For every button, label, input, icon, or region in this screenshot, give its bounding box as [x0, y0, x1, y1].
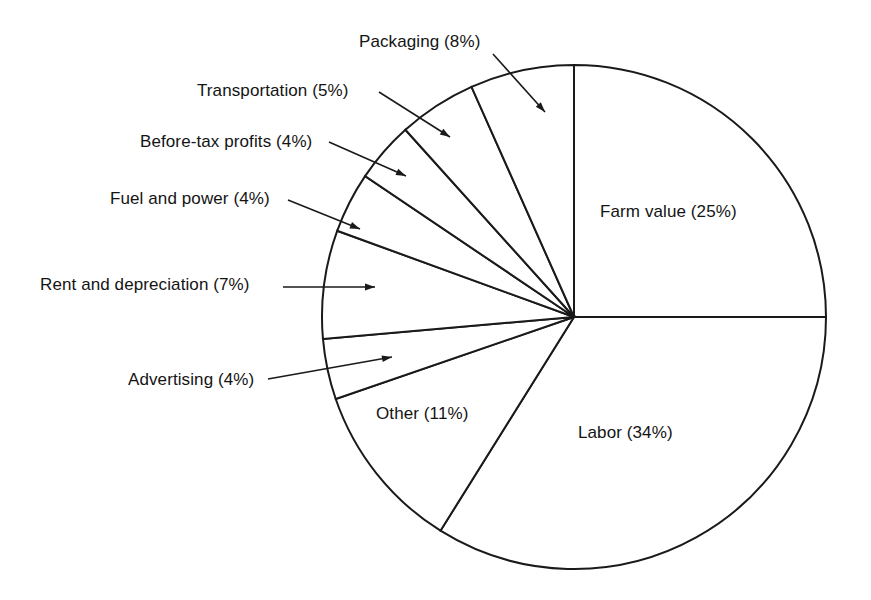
pie-label-fuel-and-power: Fuel and power (4%): [110, 190, 270, 207]
pie-label-farm-value: Farm value (25%): [600, 203, 737, 220]
pie-chart-svg: [0, 0, 871, 600]
pie-label-before-tax-profits: Before-tax profits (4%): [140, 133, 312, 150]
pie-label-labor: Labor (34%): [578, 424, 673, 441]
pie-chart-page: Farm value (25%)Labor (34%)Other (11%)Ad…: [0, 0, 871, 600]
pie-label-transportation: Transportation (5%): [197, 82, 349, 99]
pie-label-rent-and-depreciation: Rent and depreciation (7%): [40, 276, 250, 293]
pie-label-advertising: Advertising (4%): [128, 371, 254, 388]
pie-label-packaging: Packaging (8%): [359, 33, 480, 50]
pie-slices-group: [322, 65, 826, 569]
pie-slice-farm-value[interactable]: [574, 65, 826, 317]
pie-label-other: Other (11%): [376, 405, 468, 422]
